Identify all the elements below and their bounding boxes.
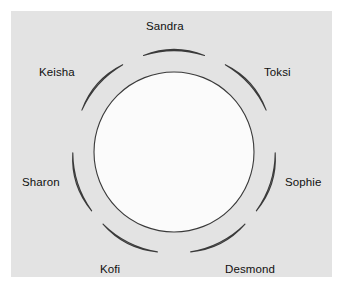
seat-desmond (191, 224, 248, 257)
seat-label-keisha: Keisha (39, 67, 75, 79)
diagram-canvas (0, 0, 346, 291)
seat-sharon (67, 153, 91, 213)
seat-label-desmond: Desmond (225, 264, 275, 276)
round-table (94, 72, 254, 232)
seat-label-sharon: Sharon (22, 177, 60, 189)
seat-label-toksi: Toksi (264, 67, 291, 79)
seat-sophie (256, 153, 280, 213)
seat-label-sandra: Sandra (146, 21, 184, 33)
seat-label-kofi: Kofi (100, 264, 120, 276)
seating-chart-diagram: Sandra Toksi Sophie Desmond Kofi Sharon … (0, 0, 346, 291)
seat-sandra (144, 50, 205, 56)
seat-kofi (100, 224, 157, 257)
seat-label-sophie: Sophie (285, 177, 321, 189)
